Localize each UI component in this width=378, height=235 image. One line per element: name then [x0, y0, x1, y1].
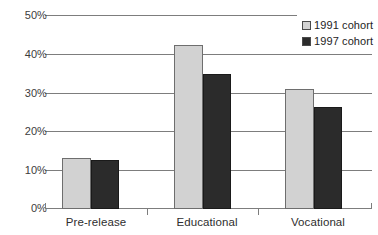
bar-educational-1991 — [174, 45, 203, 209]
ytick-label-20: 20% — [7, 125, 47, 137]
x-axis-tick-2 — [258, 208, 259, 215]
category-label-educational: Educational — [156, 216, 258, 228]
x-axis-tick-end — [371, 203, 372, 209]
bar-pre-release-1997 — [91, 160, 119, 209]
gridline-50 — [45, 15, 297, 16]
category-label-pre-release: Pre-release — [45, 216, 147, 228]
gridline-40 — [45, 54, 372, 55]
legend-label-1991: 1991 cohort — [314, 19, 373, 31]
plot-area: 50% 40% 30% 20% 10% 0% Pre-release Educa… — [0, 0, 378, 235]
bar-vocational-1991 — [285, 89, 314, 209]
legend-label-1997: 1997 cohort — [314, 35, 373, 47]
bar-pre-release-1991 — [62, 158, 91, 209]
x-axis-tick-1 — [147, 208, 148, 215]
bar-chart: 50% 40% 30% 20% 10% 0% Pre-release Educa… — [0, 0, 378, 235]
y-axis-origin-tick — [45, 203, 46, 209]
ytick-label-40: 40% — [7, 48, 47, 60]
bar-vocational-1997 — [314, 107, 342, 209]
category-label-vocational: Vocational — [267, 216, 369, 228]
ytick-label-0: 0% — [7, 202, 47, 214]
legend-swatch-icon-1991 — [302, 21, 311, 30]
legend-item-1991: 1991 cohort — [302, 18, 373, 32]
legend: 1991 cohort 1997 cohort — [302, 18, 373, 50]
ytick-label-30: 30% — [7, 87, 47, 99]
legend-item-1997: 1997 cohort — [302, 34, 373, 48]
ytick-label-10: 10% — [7, 164, 47, 176]
legend-swatch-icon-1997 — [302, 37, 311, 46]
bar-educational-1997 — [203, 74, 231, 209]
ytick-label-50: 50% — [7, 9, 47, 21]
